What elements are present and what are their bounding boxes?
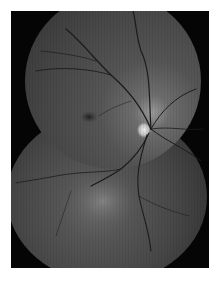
fundus-image-frame bbox=[11, 11, 209, 268]
optic-disc bbox=[136, 121, 152, 139]
retina-details bbox=[11, 11, 209, 268]
macula bbox=[80, 111, 98, 123]
